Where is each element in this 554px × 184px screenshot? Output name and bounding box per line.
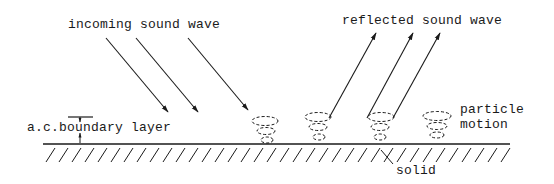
surface-hatching (46, 148, 510, 162)
solid-surface (43, 144, 510, 162)
reflected-arrow-3 (393, 33, 440, 118)
particle-spiral-4 (423, 112, 451, 139)
solid-leader-line (381, 150, 393, 164)
reflected-arrow-2 (367, 33, 413, 118)
particle-spiral-3 (368, 113, 394, 141)
reflected-sound-wave-label: reflected sound wave (342, 14, 502, 28)
acoustic-boundary-layer-diagram: incoming sound wave reflected sound wave… (0, 0, 554, 184)
particle-motion-label-line1: particle (460, 103, 524, 117)
incoming-wave-arrows (106, 38, 248, 112)
reflected-wave-arrows (329, 33, 440, 118)
reflected-arrow-1 (329, 33, 376, 118)
incoming-arrow-1 (106, 38, 168, 112)
solid-label: solid (396, 164, 436, 178)
incoming-arrow-3 (188, 38, 248, 110)
incoming-arrow-2 (136, 38, 198, 112)
boundary-layer-label: a.c.boundary layer (27, 121, 171, 135)
particle-spiral-1 (252, 117, 278, 144)
particle-motion-label-line2: motion (460, 118, 508, 132)
particle-spiral-2 (305, 113, 331, 141)
incoming-sound-wave-label: incoming sound wave (68, 18, 220, 32)
particle-motion-spirals (252, 112, 451, 144)
